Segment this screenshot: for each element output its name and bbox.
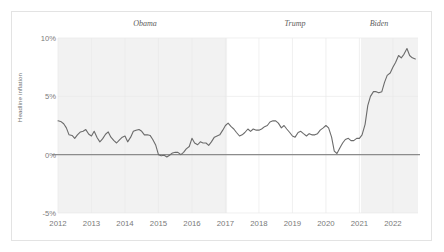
- x-tick-2014: 2014: [116, 219, 133, 228]
- x-tick-2013: 2013: [83, 219, 100, 228]
- x-tick-2022: 2022: [384, 219, 401, 228]
- x-tick-2016: 2016: [183, 219, 200, 228]
- x-tick-2021: 2021: [351, 219, 368, 228]
- inflation-chart: 10% 5% 0% -5% Headline inflation Obama T…: [0, 0, 444, 252]
- era-shade-biden: [361, 38, 418, 213]
- x-tick-2018: 2018: [250, 219, 267, 228]
- x-tick-2019: 2019: [284, 219, 301, 228]
- plot-area: [0, 0, 444, 252]
- x-tick-2012: 2012: [49, 219, 66, 228]
- x-tick-2017: 2017: [217, 219, 234, 228]
- era-shade-obama: [58, 38, 227, 213]
- x-tick-2020: 2020: [317, 219, 334, 228]
- x-tick-2015: 2015: [150, 219, 167, 228]
